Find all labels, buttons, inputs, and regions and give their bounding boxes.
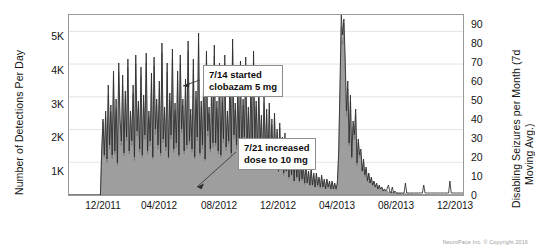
x-axis-tick-12-2013: 12/2013 <box>427 200 483 211</box>
y-axis-right-tick-30: 30 <box>471 133 495 143</box>
y-axis-left-title: Number of Detections Per Day <box>13 50 25 195</box>
y-axis-left-tick-3k: 3K <box>38 99 64 109</box>
y-axis-right-tick-60: 60 <box>471 76 495 86</box>
y-axis-left-tick-1k: 1K <box>38 166 64 176</box>
x-axis-tick-12-2012: 12/2012 <box>250 200 306 211</box>
y-axis-right-title-line2: Moving Avg.) <box>523 123 535 185</box>
annotation-clobazam-start: 7/14 started clobazam 5 mg <box>203 65 283 97</box>
y-axis-right-tick-50: 50 <box>471 95 495 105</box>
y-axis-right-tick-0: 0 <box>471 190 495 200</box>
y-axis-left-tick-2k: 2K <box>38 132 64 142</box>
y-axis-right-title-line1: Disabling Seizures per Month (7d <box>510 50 522 208</box>
annotation-dose-increase: 7/21 increased dose to 10 mg <box>238 138 316 170</box>
y-axis-right-tick-20: 20 <box>471 152 495 162</box>
y-axis-right-tick-70: 70 <box>471 57 495 67</box>
y-axis-right-tick-80: 80 <box>471 38 495 48</box>
x-axis-tick-04-2012: 04/2012 <box>131 200 187 211</box>
y-axis-right-tick-90: 90 <box>471 19 495 29</box>
x-axis-tick-08-2013: 08/2013 <box>368 200 424 211</box>
x-axis-tick-04-2013: 04/2013 <box>309 200 365 211</box>
x-axis-tick-12-2011: 12/2011 <box>75 200 131 211</box>
y-axis-left-tick-5k: 5K <box>38 31 64 41</box>
y-axis-right-tick-40: 40 <box>471 114 495 124</box>
copyright-footer: NeuroPace Inc. © Copyright 2016 <box>443 239 528 245</box>
x-axis-tick-08-2012: 08/2012 <box>191 200 247 211</box>
y-axis-right-tick-10: 10 <box>471 171 495 181</box>
y-axis-left-tick-4k: 4K <box>38 65 64 75</box>
